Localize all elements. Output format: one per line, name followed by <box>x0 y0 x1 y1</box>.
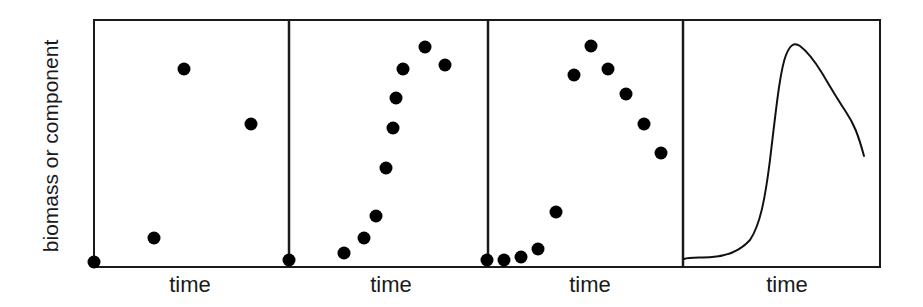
data-point <box>397 63 410 76</box>
data-point <box>358 232 371 245</box>
data-point <box>380 162 393 175</box>
data-point <box>638 118 651 131</box>
data-point <box>585 40 598 53</box>
data-point <box>439 59 452 72</box>
data-point <box>178 63 191 76</box>
data-point <box>338 247 351 260</box>
data-point <box>283 254 296 267</box>
data-point <box>602 63 615 76</box>
data-point <box>88 256 101 269</box>
data-point <box>419 41 432 54</box>
panel-4-continuous-curve <box>684 44 864 259</box>
panel-2-growth-phase-sampling <box>283 41 452 267</box>
data-point <box>532 243 545 256</box>
figure: biomass or component <box>0 0 923 307</box>
panel-1-sparse-sampling <box>88 63 258 269</box>
data-point <box>245 118 258 131</box>
panel-3-even-sampling <box>481 40 668 267</box>
panel-4-x-label: time <box>766 272 808 297</box>
data-point <box>515 251 528 264</box>
data-point <box>370 210 383 223</box>
data-point <box>390 92 403 105</box>
data-point <box>387 122 400 135</box>
data-point <box>481 254 494 267</box>
data-point <box>498 254 511 267</box>
data-point <box>148 232 161 245</box>
data-point <box>550 206 563 219</box>
panel-1-x-label: time <box>169 272 211 297</box>
data-point <box>568 69 581 82</box>
data-point <box>620 88 633 101</box>
y-axis-label: biomass or component <box>39 40 62 253</box>
panel-2-x-label: time <box>370 272 412 297</box>
panel-3-x-label: time <box>569 272 611 297</box>
data-point <box>655 147 668 160</box>
